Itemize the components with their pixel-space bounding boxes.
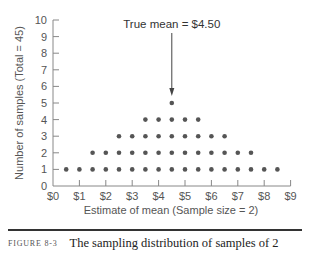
data-dot (143, 151, 148, 156)
x-tick-label: $6 (205, 190, 217, 202)
data-dot (130, 167, 135, 172)
data-dot (90, 151, 95, 156)
true-mean-label: True mean = $4.50 (123, 18, 220, 30)
y-tick-label: 8 (41, 47, 47, 59)
data-dot (170, 134, 175, 139)
x-axis: $0$1$2$3$4$5$6$7$8$9 (47, 180, 297, 202)
data-dot (117, 151, 122, 156)
y-tick-label: 1 (41, 163, 47, 175)
data-dot (275, 167, 280, 172)
figure-number: FIGURE 8-3 (8, 239, 58, 248)
data-dot (236, 167, 241, 172)
data-dot (222, 167, 227, 172)
y-tick-label: 2 (41, 147, 47, 159)
data-dot (196, 117, 201, 122)
data-dot (209, 134, 214, 139)
data-dot (196, 151, 201, 156)
data-dot (209, 167, 214, 172)
y-tick-label: 4 (41, 114, 47, 126)
data-dot (222, 151, 227, 156)
data-dot (117, 167, 122, 172)
x-tick-label: $0 (47, 190, 59, 202)
data-dot (183, 151, 188, 156)
x-axis-title: Estimate of mean (Sample size = 2) (84, 204, 259, 216)
y-tick-label: 6 (41, 80, 47, 92)
data-dot (209, 151, 214, 156)
data-dot (170, 101, 175, 106)
data-dot (130, 151, 135, 156)
x-tick-label: $9 (284, 190, 296, 202)
data-dot (249, 151, 254, 156)
data-dot (64, 167, 69, 172)
x-tick-label: $4 (152, 190, 164, 202)
y-axis-title: Number of samples (Total = 45) (13, 26, 25, 180)
x-tick-label: $5 (179, 190, 191, 202)
data-dot (156, 134, 161, 139)
data-dot (104, 167, 109, 172)
data-dot (249, 167, 254, 172)
data-dots (64, 101, 280, 172)
x-tick-label: $7 (232, 190, 244, 202)
y-tick-label: 7 (41, 64, 47, 76)
data-dot (143, 167, 148, 172)
data-dot (104, 151, 109, 156)
data-dot (236, 151, 241, 156)
caption-divider (8, 229, 302, 231)
data-dot (196, 134, 201, 139)
data-dot (156, 151, 161, 156)
data-dot (170, 117, 175, 122)
caption-text: The sampling distribution of samples of … (70, 236, 279, 250)
x-tick-label: $2 (100, 190, 112, 202)
figure-caption: FIGURE 8-3The sampling distribution of s… (8, 236, 279, 251)
data-dot (117, 134, 122, 139)
data-dot (143, 117, 148, 122)
y-tick-label: 5 (41, 97, 47, 109)
data-dot (196, 167, 201, 172)
arrow-down-icon (169, 88, 174, 96)
data-dot (262, 167, 267, 172)
x-tick-label: $3 (126, 190, 138, 202)
y-tick-label: 9 (41, 31, 47, 43)
data-dot (170, 167, 175, 172)
dot-plot-chart: 012345678910 $0$1$2$3$4$5$6$7$8$9 True m… (0, 0, 315, 230)
data-dot (77, 167, 82, 172)
y-tick-label: 10 (35, 14, 47, 26)
data-dot (156, 117, 161, 122)
x-tick-label: $8 (258, 190, 270, 202)
data-dot (183, 117, 188, 122)
y-tick-label: 3 (41, 130, 47, 142)
x-tick-label: $1 (73, 190, 85, 202)
data-dot (183, 134, 188, 139)
data-dot (130, 134, 135, 139)
data-dot (222, 134, 227, 139)
y-axis: 012345678910 (35, 14, 59, 192)
true-mean-annotation: True mean = $4.50 (123, 18, 220, 96)
data-dot (183, 167, 188, 172)
data-dot (170, 151, 175, 156)
data-dot (143, 134, 148, 139)
data-dot (156, 167, 161, 172)
data-dot (90, 167, 95, 172)
